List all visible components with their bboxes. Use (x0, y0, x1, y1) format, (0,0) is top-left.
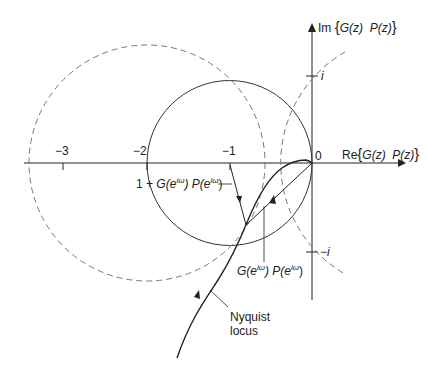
tick-label-minus-i: −i (320, 246, 330, 258)
tick-label-plus-i: i (321, 70, 324, 82)
nyquist-direction-arrow-icon (194, 290, 200, 299)
gp-vector (246, 163, 312, 225)
nyquist-leader (210, 290, 228, 307)
nyquist-label-line2: locus (230, 324, 270, 338)
gp-g-sup: iω (257, 263, 265, 272)
gp-g: G(e (237, 264, 257, 278)
gp-p-sup: iω (291, 263, 299, 272)
gp-label: G(eiω) P(eiω) (237, 264, 303, 277)
real-ticks (63, 163, 230, 170)
imag-label-close-brace: } (392, 18, 397, 35)
one-plus-gp-arrow-icon (236, 196, 242, 203)
one-plus-gp-prefix: 1 + (136, 177, 156, 191)
gp-mid: ) P(e (265, 264, 291, 278)
real-label-prefix: Re (342, 148, 357, 162)
nyquist-locus-label: Nyquist locus (230, 310, 270, 338)
one-plus-gp-g: G(e (156, 177, 176, 191)
tick-label-minus-1: −1 (222, 145, 236, 157)
tick-label-minus-3: −3 (55, 145, 69, 157)
real-label-p: P(z) (392, 148, 414, 162)
gp-end: ) (299, 264, 303, 278)
one-plus-gp-vector (230, 165, 246, 225)
real-label-g: G(z) (362, 148, 385, 162)
origin-label: 0 (315, 150, 322, 162)
one-plus-gp-mid: ) P(e (184, 177, 210, 191)
tick-label-minus-2: −2 (133, 145, 147, 157)
one-plus-gp-label: 1 + G(eiω) P(eiω) (136, 177, 222, 190)
imag-label-p: P(z) (370, 21, 392, 35)
one-plus-gp-end: ) (218, 177, 222, 191)
imag-axis-arrow-icon (308, 23, 316, 32)
gp-vector-arrow-icon (269, 195, 276, 204)
imag-axis-label: Im {G(z) P(z)} (318, 19, 397, 34)
real-label-close-brace: } (414, 145, 419, 162)
imag-label-g: G(z) (340, 21, 363, 35)
nyquist-label-line1: Nyquist (230, 310, 270, 324)
real-axis-label: Re{G(z) P(z)} (342, 146, 419, 161)
imag-label-prefix: Im (318, 21, 331, 35)
